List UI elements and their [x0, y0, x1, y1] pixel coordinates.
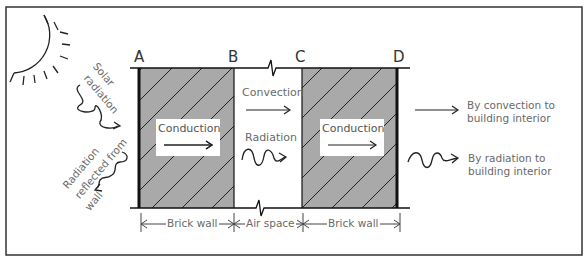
sun-icon: [10, 15, 70, 85]
point-b-label: B: [228, 48, 238, 66]
conduction-label-inner: Conduction: [322, 122, 384, 135]
interior-radiation-line-2: building interior: [468, 165, 552, 177]
dimension-brick-wall-2: Brick wall: [327, 217, 380, 229]
dimension-air-space: Air space: [245, 217, 296, 229]
point-c-label: C: [295, 48, 305, 66]
convection-label: Convection: [242, 87, 304, 99]
conduction-label-outer: Conduction: [158, 122, 220, 135]
point-a-label: A: [134, 48, 144, 66]
point-d-label: D: [393, 48, 405, 66]
interior-convection-line-1: By convection to: [467, 99, 555, 111]
radiation-label: Radiation: [245, 132, 297, 144]
interior-radiation-line-1: By radiation to: [468, 152, 546, 164]
dimension-brick-wall-1: Brick wall: [166, 217, 219, 229]
interior-convection-line-2: building interior: [467, 112, 551, 124]
